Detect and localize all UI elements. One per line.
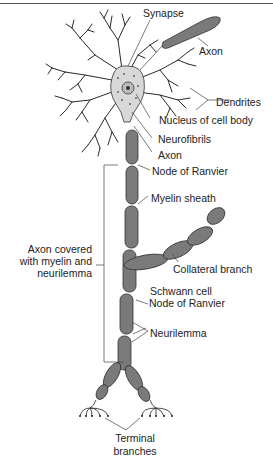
label-nucleus: Nucleus of cell body: [159, 114, 253, 126]
label-neurofibrils: Neurofibrils: [158, 133, 211, 145]
label-collateral-branch: Collateral branch: [173, 263, 252, 275]
label-node-of-ranvier-1: Node of Ranvier: [152, 165, 228, 177]
neuron-illustration: [0, 0, 273, 464]
label-myelin-sheath: Myelin sheath: [151, 192, 216, 204]
label-axon-covered-line3: neurilemma: [10, 267, 92, 279]
label-axon: Axon: [158, 149, 182, 161]
label-schwann-cell: Schwann cell: [150, 285, 212, 297]
label-terminal-line1: Terminal: [100, 432, 170, 444]
neuron-diagram: Synapse Axon Dendrites Nucleus of cell b…: [0, 0, 273, 464]
incoming-axon-icon: [162, 17, 220, 49]
label-synapse: Synapse: [143, 7, 184, 19]
myelinated-axon-icon: [118, 130, 138, 370]
label-terminal-line2: branches: [100, 445, 170, 457]
label-dendrites: Dendrites: [216, 96, 261, 108]
label-neurilemma: Neurilemma: [150, 327, 207, 339]
label-axon-covered-line2: with myelin and: [10, 255, 92, 267]
label-node-of-ranvier-2: Node of Ranvier: [149, 297, 225, 309]
label-axon-top: Axon: [199, 45, 223, 57]
label-axon-covered-line1: Axon covered: [10, 243, 92, 255]
